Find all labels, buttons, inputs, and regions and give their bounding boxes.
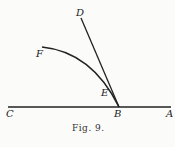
label-f: F — [35, 48, 44, 59]
label-e: E — [100, 87, 109, 98]
figure-diagram: D F E C B A Fig. 9. — [0, 0, 175, 147]
label-b: B — [113, 108, 121, 119]
label-c: C — [6, 108, 14, 119]
label-d: D — [75, 7, 84, 18]
label-a: A — [165, 108, 173, 119]
figure-caption: Fig. 9. — [72, 123, 105, 133]
line-db — [81, 18, 119, 107]
curve-feb — [42, 47, 119, 107]
